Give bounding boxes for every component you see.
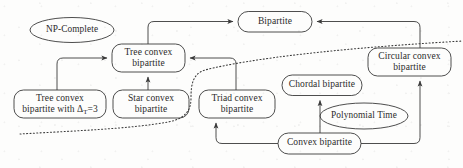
node-tree-convex-bipartite <box>112 44 185 72</box>
edge-delta3-to-tree-convex <box>57 58 107 90</box>
node-convex-bipartite <box>278 133 361 154</box>
edge-tree-convex-to-bipartite <box>148 22 233 45</box>
diagram-svg <box>0 0 463 168</box>
node-polynomial-time <box>320 103 408 129</box>
node-tree-convex-bipartite-delta3 <box>14 90 106 118</box>
diagram-canvas: NP-Complete Bipartite Tree convex bipart… <box>0 0 463 168</box>
node-circular-convex-bipartite <box>368 48 451 76</box>
node-triad-convex-bipartite <box>199 90 275 118</box>
node-bipartite <box>238 12 312 33</box>
edge-convex-to-triad-convex <box>216 123 278 144</box>
node-chordal-bipartite <box>282 75 362 96</box>
complexity-boundary-dotted-line <box>20 41 463 134</box>
edge-circular-convex-to-bipartite <box>317 22 420 49</box>
edge-triad-convex-to-tree-convex <box>190 58 236 90</box>
node-np-complete <box>30 18 114 43</box>
edge-convex-to-circular-convex <box>361 81 420 144</box>
node-star-convex-bipartite <box>113 90 189 118</box>
